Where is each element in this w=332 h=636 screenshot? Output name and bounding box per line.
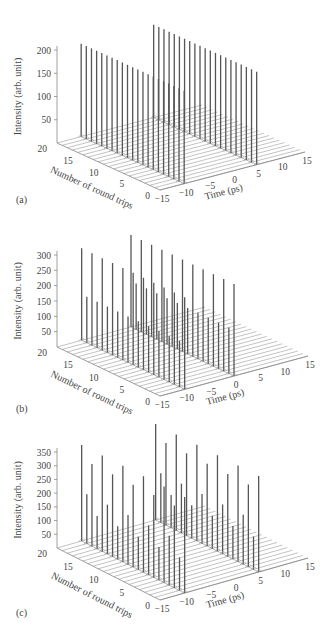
round-trip-baseline bbox=[145, 550, 293, 592]
z-tick-label: 150 bbox=[37, 69, 52, 79]
round-trip-baseline bbox=[129, 138, 274, 176]
z-tick-label: 200 bbox=[37, 281, 52, 291]
round-trip-baseline bbox=[150, 147, 295, 185]
z-tick-label: 300 bbox=[37, 461, 52, 471]
time-tick-label: −10 bbox=[179, 393, 194, 403]
panel-label-c: (c) bbox=[16, 607, 27, 618]
panel-a: 50100150200Intensity (arb. unit)05101520… bbox=[0, 0, 332, 212]
round-trip-baseline bbox=[98, 124, 243, 162]
round-trip-baseline bbox=[103, 529, 251, 571]
z-tick-label: 250 bbox=[37, 266, 52, 276]
time-tick-label: 10 bbox=[278, 162, 288, 172]
round-trip-baseline bbox=[145, 145, 290, 183]
round-trip-baseline bbox=[78, 516, 226, 558]
round-trip-baseline bbox=[67, 110, 212, 148]
round-trip-tick-label: 20 bbox=[38, 144, 48, 154]
time-tick-label: 10 bbox=[281, 367, 291, 377]
z-tick-label: 150 bbox=[37, 502, 52, 512]
z-axis-label: Intensity (arb. unit) bbox=[12, 58, 24, 135]
round-trip-baseline bbox=[124, 136, 269, 174]
time-tick-label: 15 bbox=[305, 360, 315, 370]
time-tick-label: 15 bbox=[302, 156, 312, 166]
panel-c: 50100150200250300350Intensity (arb. unit… bbox=[0, 420, 332, 636]
z-tick-label: 300 bbox=[37, 251, 52, 261]
round-trip-baseline bbox=[62, 509, 210, 551]
round-trip-tick-label: 0 bbox=[145, 191, 150, 201]
z-tick-label: 50 bbox=[42, 327, 52, 337]
round-trip-tick-label: 10 bbox=[89, 373, 99, 383]
round-trip-baseline bbox=[83, 117, 228, 155]
round-trip-baseline bbox=[57, 105, 202, 143]
z-tick-label: 150 bbox=[37, 297, 52, 307]
round-trip-tick-label: 10 bbox=[89, 168, 99, 178]
round-trip-baseline bbox=[98, 527, 246, 569]
round-trip-baseline bbox=[109, 129, 254, 167]
round-trip-baseline bbox=[114, 535, 262, 577]
round-trip-baseline bbox=[114, 131, 259, 169]
plot-area: 50100150200250300Intensity (arb. unit)05… bbox=[12, 235, 315, 417]
round-trip-baseline bbox=[124, 540, 272, 582]
time-tick-label: 10 bbox=[281, 569, 291, 579]
time-tick-label: 5 bbox=[258, 576, 263, 586]
time-tick-label: −10 bbox=[179, 597, 194, 607]
round-trip-tick-label: 0 bbox=[145, 601, 150, 611]
round-trip-baseline bbox=[62, 107, 207, 145]
round-trip-tick-label: 15 bbox=[63, 360, 73, 370]
round-trip-baseline bbox=[119, 537, 267, 579]
round-trip-baseline bbox=[72, 514, 220, 556]
time-tick-label: −15 bbox=[155, 194, 170, 204]
round-trip-baseline bbox=[103, 126, 248, 164]
time-tick-label: 5 bbox=[256, 169, 261, 179]
time-tick-label: 5 bbox=[258, 373, 263, 383]
round-trip-baseline bbox=[109, 532, 257, 574]
round-trip-baseline bbox=[139, 143, 284, 181]
z-axis-label: Intensity (arb. unit) bbox=[12, 262, 24, 339]
round-trip-baseline bbox=[139, 548, 287, 590]
z-tick-label: 200 bbox=[37, 46, 52, 56]
round-trip-baseline bbox=[67, 511, 215, 553]
waterfall-plot-a: 50100150200Intensity (arb. unit)05101520… bbox=[0, 0, 332, 212]
round-trip-tick-label: 10 bbox=[89, 575, 99, 585]
z-tick-label: 50 bbox=[42, 530, 52, 540]
time-tick-label: −15 bbox=[155, 604, 170, 614]
time-tick-label: −15 bbox=[155, 400, 170, 410]
round-trip-tick-label: 5 bbox=[120, 179, 125, 189]
z-tick-label: 350 bbox=[37, 448, 52, 458]
plot-area: 50100150200Intensity (arb. unit)05101520… bbox=[12, 25, 312, 211]
z-tick-label: 100 bbox=[37, 92, 52, 102]
panel-label-b: (b) bbox=[16, 403, 28, 414]
round-trip-tick-label: 15 bbox=[63, 156, 73, 166]
time-tick-label: −10 bbox=[179, 188, 194, 198]
plot-area: 50100150200250300350Intensity (arb. unit… bbox=[12, 424, 315, 620]
z-tick-label: 250 bbox=[37, 475, 52, 485]
z-tick-label: 50 bbox=[42, 115, 52, 125]
round-trip-baseline bbox=[93, 524, 241, 566]
time-tick-label: 15 bbox=[305, 562, 315, 572]
panel-b: 50100150200250300Intensity (arb. unit)05… bbox=[0, 210, 332, 420]
round-trip-baseline bbox=[83, 519, 231, 561]
round-trip-baseline bbox=[119, 133, 264, 171]
round-trip-baseline bbox=[93, 121, 238, 159]
round-trip-baseline bbox=[88, 119, 233, 157]
round-trip-baseline bbox=[129, 542, 277, 584]
round-trip-tick-label: 15 bbox=[63, 562, 73, 572]
round-trip-tick-label: 0 bbox=[145, 397, 150, 407]
round-trip-baseline bbox=[150, 553, 298, 595]
waterfall-plot-c: 50100150200250300350Intensity (arb. unit… bbox=[0, 420, 332, 636]
round-trip-baseline bbox=[88, 522, 236, 564]
z-axis-label: Intensity (arb. unit) bbox=[12, 461, 24, 538]
round-trip-baseline bbox=[72, 112, 217, 150]
panel-label-a: (a) bbox=[16, 194, 27, 205]
round-trip-tick-label: 5 bbox=[120, 385, 125, 395]
z-tick-label: 100 bbox=[37, 312, 52, 322]
round-trip-baseline bbox=[78, 114, 223, 152]
round-trip-tick-label: 5 bbox=[120, 588, 125, 598]
round-trip-tick-label: 20 bbox=[38, 549, 48, 559]
round-trip-tick-label: 20 bbox=[38, 348, 48, 358]
round-trip-baseline bbox=[57, 506, 205, 548]
z-tick-label: 100 bbox=[37, 516, 52, 526]
waterfall-plot-b: 50100150200250300Intensity (arb. unit)05… bbox=[0, 210, 332, 420]
z-tick-label: 200 bbox=[37, 489, 52, 499]
